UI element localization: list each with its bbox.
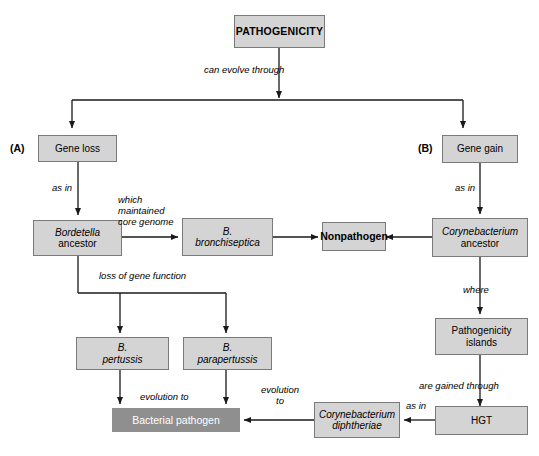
node-gene-gain-label: Gene gain xyxy=(457,143,503,155)
edge-label-where: where xyxy=(463,284,489,295)
node-b-bronchiseptica-line1: B. xyxy=(223,226,232,238)
edge-label-are-gained-through: are gained through xyxy=(419,380,499,391)
node-pathogenicity[interactable]: PATHOGENICITY xyxy=(234,15,325,48)
node-b-parapertussis[interactable]: B. parapertussis xyxy=(183,337,272,370)
edge-label-loss-of-gene-function: loss of gene function xyxy=(99,270,186,281)
edge-label-evolution-to-right: evolution to xyxy=(255,384,305,406)
edge-label-evolution-to-left: evolution to xyxy=(140,391,189,402)
node-corynebacterium-ancestor-line2: ancestor xyxy=(461,238,499,250)
node-nonpathogen-label: Nonpathogen xyxy=(320,230,388,242)
edge-label-as-in-left: as in xyxy=(52,182,72,193)
which-maintained-line2: maintained xyxy=(118,205,164,216)
node-nonpathogen[interactable]: Nonpathogen xyxy=(322,222,386,251)
node-b-bronchiseptica[interactable]: B. bronchiseptica xyxy=(182,218,273,256)
node-b-pertussis-line2: pertussis xyxy=(102,354,142,366)
node-c-diphtheriae-line2: diphtheriae xyxy=(332,420,381,432)
node-pathogenicity-label: PATHOGENICITY xyxy=(236,25,323,37)
node-b-parapertussis-line1: B. xyxy=(223,342,232,354)
panel-tag-a: (A) xyxy=(10,142,25,154)
edge-label-can-evolve-through: can evolve through xyxy=(204,64,284,75)
node-b-pertussis-line1: B. xyxy=(118,342,127,354)
node-gene-gain[interactable]: Gene gain xyxy=(442,135,518,163)
node-corynebacterium-ancestor-line1: Corynebacterium xyxy=(442,226,518,238)
node-corynebacterium-ancestor[interactable]: Corynebacterium ancestor xyxy=(432,218,528,257)
node-bordetella-ancestor-line2: ancestor xyxy=(58,238,96,250)
evolution-to-right-line1: evolution xyxy=(261,384,299,395)
node-b-bronchiseptica-line2: bronchiseptica xyxy=(195,237,259,249)
which-maintained-line1: which xyxy=(118,194,142,205)
node-pathogenicity-islands-line2: islands xyxy=(466,337,497,349)
node-pathogenicity-islands[interactable]: Pathogenicity islands xyxy=(435,318,528,355)
pathogenicity-evolution-diagram: PATHOGENICITY (A) Gene loss (B) Gene gai… xyxy=(0,0,539,456)
edge-label-which-maintained-core-genome: which maintained core genome xyxy=(118,194,188,228)
node-b-parapertussis-line2: parapertussis xyxy=(197,354,257,366)
node-pathogenicity-islands-line1: Pathogenicity xyxy=(451,325,511,337)
node-hgt-label: HGT xyxy=(471,415,492,427)
node-gene-loss[interactable]: Gene loss xyxy=(38,135,117,162)
node-bacterial-pathogen[interactable]: Bacterial pathogen xyxy=(112,408,240,432)
panel-tag-b: (B) xyxy=(418,142,433,154)
node-bordetella-ancestor[interactable]: Bordetella ancestor xyxy=(33,220,122,256)
which-maintained-line3: core genome xyxy=(118,216,173,227)
node-bacterial-pathogen-label: Bacterial pathogen xyxy=(132,414,220,426)
node-gene-loss-label: Gene loss xyxy=(55,143,100,155)
node-b-pertussis[interactable]: B. pertussis xyxy=(76,337,169,370)
edge-label-as-in-right: as in xyxy=(455,182,475,193)
evolution-to-right-line2: to xyxy=(276,395,284,406)
node-bordetella-ancestor-line1: Bordetella xyxy=(55,227,100,239)
node-c-diphtheriae-line1: Corynebacterium xyxy=(319,409,395,421)
node-corynebacterium-diphtheriae[interactable]: Corynebacterium diphtheriae xyxy=(314,402,400,438)
node-hgt[interactable]: HGT xyxy=(435,406,528,435)
edge-label-as-in-hgt: as in xyxy=(406,400,426,411)
